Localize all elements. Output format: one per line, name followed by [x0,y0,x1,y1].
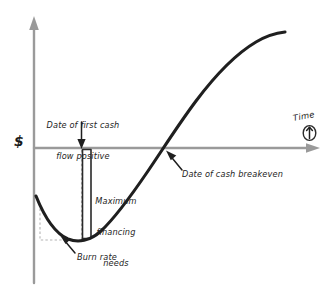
cash-breakeven-arrow [166,151,182,171]
label-maximum-financing-needs: Maximum financing needs [93,176,139,288]
label-date-of-cash-breakeven: Date of cash breakeven [182,169,300,179]
label-max-financing-line-1: Maximum [93,196,139,206]
label-burn-rate: Burn rate [77,252,137,262]
label-first-cash-line-1: Date of first cash [37,120,129,130]
x-axis-arrowhead-icon [306,143,320,153]
y-axis-dollar-label: $ [14,133,24,149]
cash-flow-curve-figure: $ Time Date of first cash flow positive … [0,0,331,291]
label-date-of-first-cash-flow-positive: Date of first cash flow positive [37,100,129,182]
arrow-up-left-icon [166,151,176,161]
time-axis-circled-marker-icon [303,126,316,141]
label-first-cash-line-2: flow positive [37,151,129,161]
label-max-financing-line-2: financing [93,227,139,237]
y-axis-arrowhead-icon [29,16,39,30]
